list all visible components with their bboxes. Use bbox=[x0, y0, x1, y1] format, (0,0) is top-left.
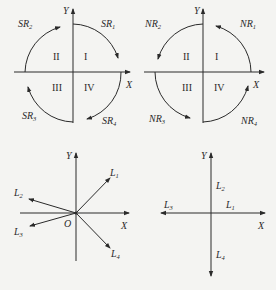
panel-vectors-oblique: X Y O L1 L2 L3 L4 bbox=[13, 150, 129, 261]
label-nr3: NR3 bbox=[148, 113, 166, 125]
vector-l4 bbox=[76, 213, 110, 248]
arc-nr2 bbox=[158, 24, 203, 59]
arc-nr3 bbox=[155, 72, 190, 118]
quadrant-IV: IV bbox=[214, 82, 225, 93]
vector-l1 bbox=[76, 178, 110, 213]
vector-l2 bbox=[29, 199, 76, 213]
quadrant-III: III bbox=[182, 82, 192, 93]
label-l2: L2 bbox=[215, 180, 226, 192]
x-axis-label: X bbox=[120, 220, 128, 231]
arc-sr4 bbox=[87, 72, 121, 119]
y-axis-label: Y bbox=[201, 150, 208, 161]
quadrant-IV: IV bbox=[84, 82, 95, 93]
label-sr3: SR3 bbox=[22, 110, 37, 122]
x-axis-label: X bbox=[252, 79, 260, 90]
quadrant-I: I bbox=[84, 51, 87, 62]
y-axis-label: Y bbox=[63, 5, 70, 16]
label-sr4: SR4 bbox=[102, 115, 117, 127]
label-l2: L2 bbox=[13, 187, 24, 199]
quadrant-diagrams: X Y I II III IV SR1 SR2 SR3 SR4 X Y I II… bbox=[0, 0, 276, 290]
arc-nr1 bbox=[216, 26, 251, 72]
quadrant-II: II bbox=[183, 51, 190, 62]
quadrant-III: III bbox=[52, 82, 62, 93]
panel-nr-counterclockwise: X Y I II III IV NR1 NR2 NR3 NR4 bbox=[144, 5, 264, 127]
y-axis-label: Y bbox=[66, 150, 73, 161]
label-nr4: NR4 bbox=[240, 115, 258, 127]
label-l3: L3 bbox=[13, 226, 24, 238]
arc-sr2 bbox=[25, 27, 60, 72]
label-nr2: NR2 bbox=[144, 18, 162, 30]
label-l4: L4 bbox=[215, 249, 226, 261]
label-l3: L3 bbox=[163, 199, 174, 211]
origin-label: O bbox=[64, 218, 71, 229]
label-sr1: SR1 bbox=[101, 18, 115, 30]
quadrant-I: I bbox=[215, 51, 218, 62]
x-axis-label: X bbox=[125, 79, 133, 90]
label-l1: L1 bbox=[109, 167, 119, 179]
label-l4: L4 bbox=[110, 248, 121, 260]
label-l1: L1 bbox=[225, 199, 235, 211]
y-axis-label: Y bbox=[194, 5, 201, 16]
panel-vectors-axis-aligned: X Y L1 L2 L3 L4 bbox=[161, 150, 265, 276]
panel-sr-clockwise: X Y I II III IV SR1 SR2 SR3 SR4 bbox=[14, 5, 133, 127]
x-axis-label: X bbox=[257, 220, 265, 231]
quadrant-II: II bbox=[53, 51, 60, 62]
label-nr1: NR1 bbox=[239, 18, 256, 30]
label-sr2: SR2 bbox=[18, 18, 33, 30]
